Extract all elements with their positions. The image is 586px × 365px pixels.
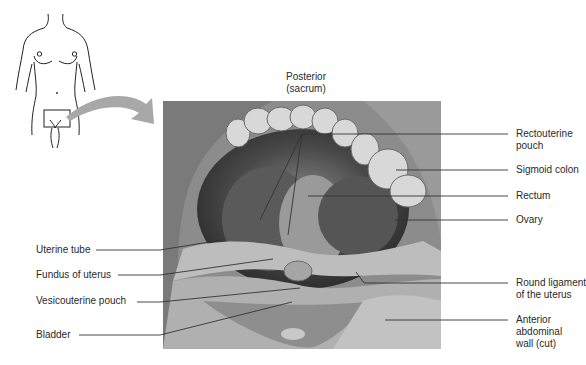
label-text: wall (cut): [516, 338, 562, 350]
label-text: Fundus of uterus: [36, 269, 111, 281]
label-sigmoid-colon: Sigmoid colon: [516, 164, 579, 176]
label-anterior-abdominal-wall: Anterior abdominal wall (cut): [516, 314, 562, 350]
label-text: Ovary: [516, 214, 543, 226]
leader-fundus: [118, 259, 273, 275]
label-text: Rectum: [516, 190, 550, 202]
label-text: Rectouterine: [516, 128, 573, 140]
leader-round-ligament: [356, 272, 508, 283]
label-text: Bladder: [36, 329, 70, 341]
label-rectouterine-pouch: Rectouterine pouch: [516, 128, 573, 152]
label-text: Sigmoid colon: [516, 164, 579, 176]
leader-vesicouterine-pouch: [137, 288, 300, 302]
label-text: Round ligament: [516, 277, 586, 289]
label-rectum: Rectum: [516, 190, 550, 202]
label-bladder: Bladder: [36, 329, 70, 341]
label-ovary: Ovary: [516, 214, 543, 226]
label-fundus-of-uterus: Fundus of uterus: [36, 269, 111, 281]
label-text: Vesicouterine pouch: [36, 295, 126, 307]
label-text: Uterine tube: [36, 244, 90, 256]
label-text: pouch: [516, 140, 573, 152]
label-uterine-tube: Uterine tube: [36, 244, 90, 256]
leader-uterine-tube: [96, 240, 222, 250]
label-vesicouterine-pouch: Vesicouterine pouch: [36, 295, 126, 307]
label-text: Anterior: [516, 314, 562, 326]
label-text: abdominal: [516, 326, 562, 338]
label-text: of the uterus: [516, 289, 586, 301]
label-round-ligament: Round ligament of the uterus: [516, 277, 586, 301]
